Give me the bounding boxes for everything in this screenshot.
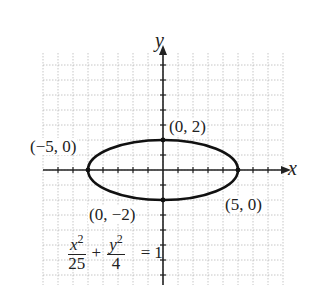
equation-rhs: 1: [154, 243, 163, 263]
x-exponent: 2: [78, 232, 84, 246]
y-denominator: 4: [112, 255, 121, 274]
x-axis-label: x: [288, 158, 297, 178]
point-label-right: (5, 0): [224, 196, 263, 213]
vertex-point: [161, 198, 166, 203]
y-exponent: 2: [117, 232, 123, 246]
y-fraction: y2 4: [107, 233, 125, 273]
x-term: x: [70, 235, 78, 254]
point-label-left: (−5, 0): [29, 138, 77, 155]
x-fraction: x2 25: [68, 233, 86, 273]
point-label-bottom: (0, −2): [88, 206, 136, 223]
y-term: y: [109, 235, 117, 254]
vertex-point: [86, 168, 91, 173]
y-axis-label: y: [155, 30, 164, 50]
x-denominator: 25: [68, 255, 85, 274]
vertex-point: [236, 168, 241, 173]
equals-sign: =: [141, 243, 151, 263]
ellipse-equation: x2 25 + y2 4 = 1: [66, 233, 163, 273]
point-label-top: (0, 2): [168, 118, 207, 135]
vertex-point: [161, 138, 166, 143]
plus-sign: +: [92, 243, 102, 263]
